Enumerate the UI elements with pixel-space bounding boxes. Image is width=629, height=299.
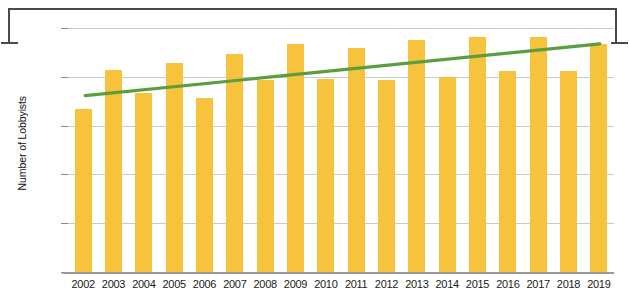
bar-2005 bbox=[166, 63, 183, 272]
bar-2003 bbox=[105, 70, 122, 272]
bar-2013 bbox=[408, 40, 425, 272]
bar-2002 bbox=[75, 109, 92, 272]
bar-2012 bbox=[378, 80, 395, 272]
y-axis-tick-mark bbox=[61, 126, 68, 127]
y-axis-tick-mark bbox=[61, 223, 68, 224]
y-axis-tick-mark bbox=[61, 28, 68, 29]
bar-2019 bbox=[590, 44, 607, 272]
x-axis-line bbox=[62, 272, 614, 274]
bar-2014 bbox=[439, 77, 456, 272]
bar-2010 bbox=[317, 79, 334, 272]
bar-2007 bbox=[226, 54, 243, 272]
y-axis-tick-mark bbox=[61, 77, 68, 78]
plot-area: 04008001,2001,6002,000 20022003200420052… bbox=[68, 28, 614, 272]
y-axis-tick-mark bbox=[61, 174, 68, 175]
bar-2004 bbox=[135, 93, 152, 272]
bar-2015 bbox=[469, 37, 486, 272]
y-axis-title: Number of Lobbyists bbox=[16, 96, 28, 190]
bar-2009 bbox=[287, 44, 304, 272]
decorative-bracket-foot-left bbox=[1, 42, 18, 44]
trendline-segment bbox=[85, 44, 600, 96]
bar-2006 bbox=[196, 98, 213, 272]
bar-2017 bbox=[530, 37, 547, 272]
gridline bbox=[68, 28, 614, 29]
x-axis-tick-label: 2019 bbox=[577, 278, 621, 290]
bar-2018 bbox=[560, 71, 577, 272]
bar-2008 bbox=[257, 80, 274, 272]
bar-2011 bbox=[348, 48, 365, 272]
bar-2016 bbox=[499, 71, 516, 272]
chart-screenshot: Number of Lobbyists 04008001,2001,6002,0… bbox=[0, 0, 629, 299]
